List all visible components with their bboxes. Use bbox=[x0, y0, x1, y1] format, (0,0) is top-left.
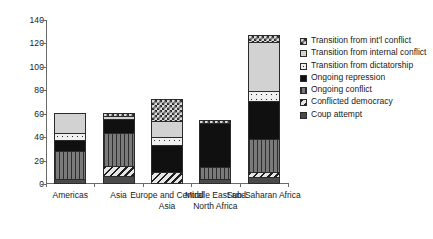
bar-segment bbox=[55, 114, 85, 135]
legend-swatch-icon bbox=[300, 99, 307, 106]
legend-item[interactable]: Conflicted democracy bbox=[300, 97, 433, 107]
bar-segment bbox=[104, 177, 134, 183]
bar-europe-and-central-asia[interactable] bbox=[151, 99, 183, 185]
y-axis-tick-label: 0 bbox=[4, 179, 44, 189]
x-axis-label: Sub-Saharan Africa bbox=[226, 190, 302, 201]
bar-segment bbox=[200, 168, 230, 179]
bar-asia[interactable] bbox=[103, 113, 135, 184]
legend-swatch-icon bbox=[300, 50, 307, 57]
bar-middle-east-and-north-africa[interactable] bbox=[199, 120, 231, 184]
legend-swatch-icon bbox=[300, 75, 307, 82]
legend-item[interactable]: Ongoing conflict bbox=[300, 85, 433, 95]
plot-area: 140120100806040200 AmericasAsiaEurope an… bbox=[0, 0, 290, 239]
chart-root: 140120100806040200 AmericasAsiaEurope an… bbox=[0, 0, 433, 239]
legend-swatch-icon bbox=[300, 63, 307, 70]
legend-item[interactable]: Transition from internal conflict bbox=[300, 48, 433, 58]
bar-segment bbox=[249, 178, 279, 183]
bar-segment bbox=[249, 36, 279, 43]
legend-item-label: Conflicted democracy bbox=[311, 97, 393, 107]
bar-segment bbox=[152, 146, 182, 172]
bar-segment bbox=[249, 140, 279, 172]
bar-segment bbox=[152, 122, 182, 138]
y-axis-tick-label: 100 bbox=[4, 62, 44, 72]
bar-segment bbox=[249, 92, 279, 102]
bar-segment bbox=[249, 43, 279, 92]
legend-item[interactable]: Transition from int'l conflict bbox=[300, 36, 433, 46]
legend-item-label: Ongoing repression bbox=[311, 73, 385, 83]
bar-segment bbox=[55, 134, 85, 141]
legend-item[interactable]: Transition from dictatorship bbox=[300, 61, 433, 71]
x-axis-tick-mark bbox=[288, 183, 289, 187]
bar-segment bbox=[55, 180, 85, 183]
bar-segment bbox=[152, 173, 182, 183]
bar-segment bbox=[249, 102, 279, 140]
bar-americas[interactable] bbox=[54, 113, 86, 184]
legend-swatch-icon bbox=[300, 87, 307, 94]
y-axis-tick-label: 120 bbox=[4, 38, 44, 48]
y-axis-tick-label: 20 bbox=[4, 156, 44, 166]
y-axis-tick-label: 80 bbox=[4, 85, 44, 95]
legend-item[interactable]: Ongoing repression bbox=[300, 73, 433, 83]
bar-segment bbox=[104, 120, 134, 134]
legend-swatch-icon bbox=[300, 112, 307, 119]
bar-sub-saharan-africa[interactable] bbox=[248, 35, 280, 184]
legend-item-label: Coup attempt bbox=[311, 110, 362, 120]
bar-segment bbox=[152, 100, 182, 123]
legend-item-label: Transition from dictatorship bbox=[311, 61, 413, 71]
bar-segment bbox=[104, 167, 134, 177]
bar-segment bbox=[55, 152, 85, 179]
y-axis-tick-label: 40 bbox=[4, 132, 44, 142]
legend-item-label: Ongoing conflict bbox=[311, 85, 372, 95]
chart-legend: Transition from int'l conflictTransition… bbox=[300, 36, 433, 122]
legend-item-label: Transition from internal conflict bbox=[311, 48, 426, 58]
legend-item-label: Transition from int'l conflict bbox=[311, 36, 411, 46]
y-axis-tick-label: 140 bbox=[4, 15, 44, 25]
bar-segment bbox=[200, 180, 230, 183]
bar-group bbox=[46, 20, 288, 184]
legend-swatch-icon bbox=[300, 38, 307, 45]
bar-segment bbox=[55, 141, 85, 152]
legend-item[interactable]: Coup attempt bbox=[300, 110, 433, 120]
bar-segment bbox=[152, 138, 182, 146]
bar-segment bbox=[200, 124, 230, 168]
y-axis-tick-label: 60 bbox=[4, 109, 44, 119]
bar-segment bbox=[104, 134, 134, 167]
